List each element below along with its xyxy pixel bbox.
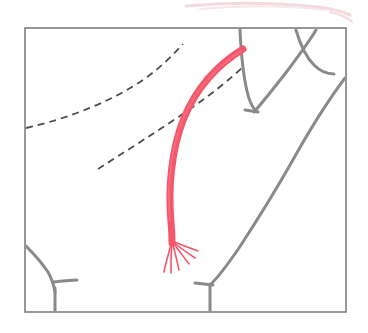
- anatomical-illustration-canvas: [0, 0, 368, 333]
- anatomy-line-bottom-right-tick: [195, 283, 213, 285]
- illustration-border: [25, 28, 346, 312]
- anatomy-line-notch-base: [245, 110, 258, 112]
- top-edge-pink-smudge: [186, 3, 352, 22]
- illustration-figure: Anatomical line drawing of a vessel graf…: [0, 0, 368, 333]
